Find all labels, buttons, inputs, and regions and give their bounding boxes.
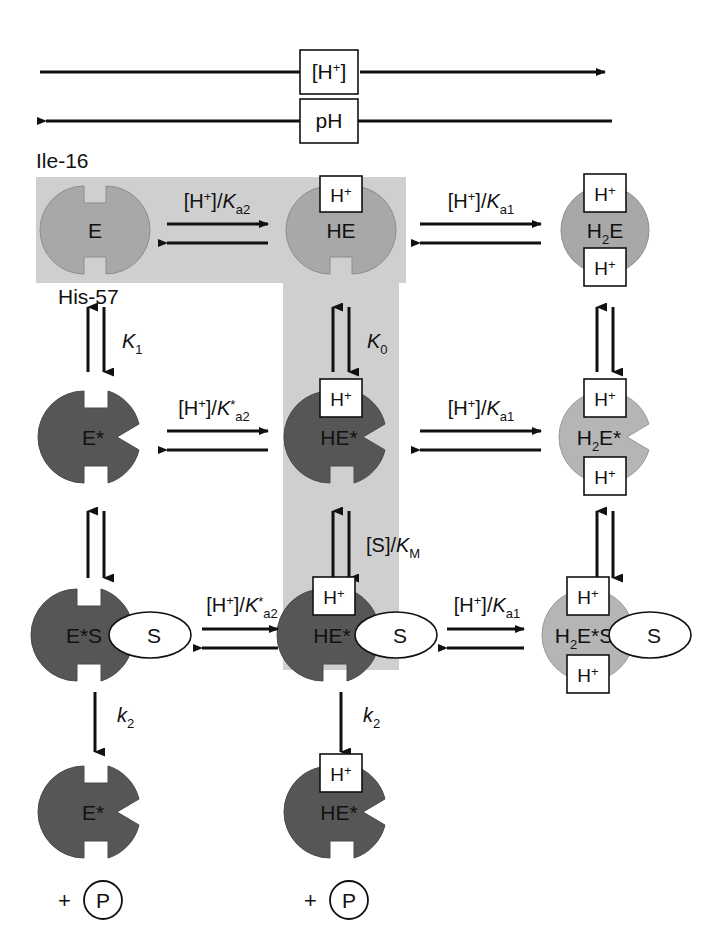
eq-HEstar-H2Estar: [H+]/Ka1 [420, 396, 541, 450]
substrate-ellipse: S [109, 612, 191, 658]
product-left: + P [58, 881, 122, 919]
species-H2E-star-S: H2E*S H+ H+ S [542, 577, 691, 693]
proton-box-top: H+ [320, 176, 362, 212]
ph-axis: pH [46, 99, 612, 143]
proton-box-top: H+ [320, 754, 362, 792]
his-57-label: His-57 [58, 285, 119, 308]
species-E-star: E* [38, 391, 139, 483]
figure-canvas: [H+] pH Ile-16 His-57 E HE H+ H2E [0, 0, 711, 945]
enzyme-scheme-diagram: [H+] pH Ile-16 His-57 E HE H+ H2E [0, 0, 711, 945]
h-plus-axis-label: [H+] [312, 60, 346, 83]
proton-box-top: H+ [567, 577, 609, 615]
species-E-label: E [88, 219, 102, 242]
species-E-star-S-label: E*S [66, 624, 102, 647]
eq-Estar-EstarS [88, 511, 104, 578]
substrate-label: S [393, 624, 407, 647]
species-HE-label: HE [326, 219, 355, 242]
ile-16-label: Ile-16 [36, 149, 89, 172]
eq-H2E-H2Estar [597, 307, 613, 372]
proton-box-bottom: H+ [584, 457, 626, 495]
proton-box-top: H+ [313, 577, 355, 615]
eq-HE-H2E-label: [H+]/Ka1 [448, 189, 515, 217]
proton-box-top: H+ [320, 379, 362, 417]
plus-sign-middle: + [304, 888, 317, 913]
eq-HEstar-H2Estar-label: [H+]/Ka1 [448, 396, 515, 424]
species-HE-star-S-label: HE* [313, 624, 350, 647]
proton-box-bottom: H+ [584, 248, 626, 286]
eq-EstarS-HEstarS: [H+]/K*a2 [202, 593, 278, 648]
h-plus-axis: [H+] [40, 50, 605, 94]
product-label-left: P [96, 889, 110, 912]
species-HE-star-product-label: HE* [320, 801, 357, 824]
eq-E-Estar-label: K1 [122, 330, 143, 357]
eq-HEstarS-H2EstarS-label: [H+]/Ka1 [454, 593, 521, 621]
species-HE-star-label: HE* [320, 426, 357, 449]
k2-left: k2 [95, 692, 134, 752]
substrate-label: S [647, 624, 661, 647]
ph-axis-label: pH [316, 109, 343, 132]
k2-left-label: k2 [117, 704, 134, 731]
eq-H2Estar-H2EstarS [597, 511, 613, 578]
proton-box-top: H+ [584, 174, 626, 212]
proton-box-bottom: H+ [567, 655, 609, 693]
species-E-star-product-label: E* [82, 801, 104, 824]
plus-sign-left: + [58, 888, 71, 913]
species-H2E-star: H2E* H+ H+ [559, 379, 649, 495]
eq-Estar-HEstar: [H+]/K*a2 [167, 396, 268, 450]
eq-Estar-HEstar-label: [H+]/K*a2 [178, 396, 250, 424]
product-middle: + P [304, 881, 368, 919]
substrate-ellipse: S [355, 612, 437, 658]
substrate-label: S [147, 624, 161, 647]
eq-EstarS-HEstarS-label: [H+]/K*a2 [206, 593, 278, 621]
species-H2E: H2E H+ H+ [561, 174, 649, 286]
substrate-ellipse: S [609, 612, 691, 658]
species-HE-star-product: HE* H+ [284, 754, 385, 858]
k2-middle-label: k2 [363, 704, 380, 731]
species-E-star-label: E* [82, 426, 104, 449]
species-E-star-S: E*S S [31, 589, 191, 681]
proton-box-top: H+ [584, 379, 626, 417]
eq-HEstarS-H2EstarS: [H+]/Ka1 [447, 593, 524, 648]
k2-middle: k2 [341, 692, 380, 752]
eq-HE-H2E: [H+]/Ka1 [420, 189, 541, 243]
species-E-star-product: E* [38, 766, 139, 858]
product-label-middle: P [342, 889, 356, 912]
